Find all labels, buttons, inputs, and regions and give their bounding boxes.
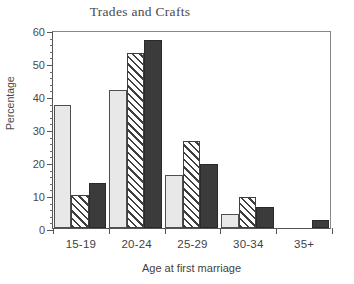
bar xyxy=(144,40,162,228)
x-axis-tick-label: 25-29 xyxy=(177,238,207,250)
x-axis-tick xyxy=(332,228,333,234)
x-axis-tick xyxy=(53,228,54,234)
bar xyxy=(127,53,145,228)
y-axis-tick-label: 40 xyxy=(33,92,45,104)
bar xyxy=(109,90,127,228)
x-axis-tick-label: 35+ xyxy=(294,238,314,250)
y-axis-tick-label: 30 xyxy=(33,125,45,137)
bar xyxy=(165,175,183,228)
x-axis-tick xyxy=(276,228,277,234)
bar xyxy=(200,164,218,228)
bar xyxy=(312,220,330,228)
x-axis-tick-label: 20-24 xyxy=(121,238,151,250)
x-axis-label: Age at first marriage xyxy=(52,262,331,274)
bar xyxy=(89,183,107,228)
plot-area: 0102030405060 15-1920-2425-2930-3435+ xyxy=(52,31,331,229)
y-axis-tick-label: 0 xyxy=(39,224,45,236)
x-axis-tick xyxy=(220,228,221,234)
bar xyxy=(71,195,89,228)
chart-title: Trades and Crafts xyxy=(0,4,280,20)
bar xyxy=(221,214,239,228)
y-axis-tick-label: 10 xyxy=(33,191,45,203)
x-axis-tick xyxy=(165,228,166,234)
x-axis-tick xyxy=(109,228,110,234)
bar xyxy=(183,141,201,228)
bar xyxy=(239,197,257,228)
chart-figure: Trades and Crafts Percentage 01020304050… xyxy=(0,0,354,284)
y-axis-tick-label: 60 xyxy=(33,26,45,38)
x-axis-tick-label: 30-34 xyxy=(233,238,263,250)
bar xyxy=(256,207,274,228)
y-axis-tick-label: 50 xyxy=(33,59,45,71)
bars-layer xyxy=(53,32,330,228)
y-axis-label: Percentage xyxy=(4,76,16,130)
y-axis-tick-label: 20 xyxy=(33,158,45,170)
x-axis-tick-label: 15-19 xyxy=(66,238,96,250)
bar xyxy=(54,105,72,228)
